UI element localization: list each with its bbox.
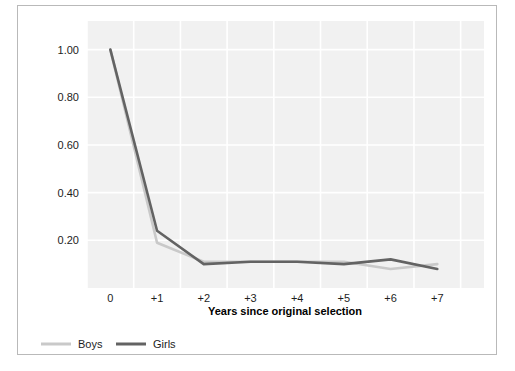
x-tick-label: +7 [431, 292, 444, 304]
line-chart: 1.000.800.600.400.20 0+1+2+3+4+5+6+7 Yea… [18, 6, 498, 356]
y-tick-label: 0.60 [58, 139, 79, 151]
plot-background-panel [87, 21, 484, 288]
y-tick-label: 1.00 [58, 44, 79, 56]
y-axis-tick-labels: 1.000.800.600.400.20 [58, 44, 79, 247]
legend-label-boys: Boys [78, 338, 103, 350]
figure-frame: 1.000.800.600.400.20 0+1+2+3+4+5+6+7 Yea… [17, 5, 497, 355]
y-tick-label: 0.40 [58, 187, 79, 199]
x-tick-label: +6 [384, 292, 397, 304]
x-tick-label: +4 [291, 292, 304, 304]
x-tick-label: +5 [338, 292, 351, 304]
x-tick-label: 0 [107, 292, 113, 304]
chart-svg: 1.000.800.600.400.20 0+1+2+3+4+5+6+7 Yea… [18, 6, 498, 356]
legend-label-girls: Girls [153, 338, 176, 350]
legend: Boys Girls [41, 338, 176, 350]
x-axis-tick-labels: 0+1+2+3+4+5+6+7 [107, 292, 443, 304]
x-tick-label: +1 [151, 292, 164, 304]
x-tick-label: +2 [197, 292, 210, 304]
y-tick-label: 0.20 [58, 234, 79, 246]
x-tick-label: +3 [244, 292, 257, 304]
y-tick-label: 0.80 [58, 91, 79, 103]
x-axis-title: Years since original selection [208, 305, 362, 317]
